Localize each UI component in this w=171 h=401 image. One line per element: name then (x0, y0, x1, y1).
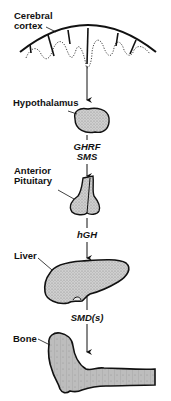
anterior-pituitary-shape (58, 176, 100, 215)
label-cortex-line2: cortex (14, 21, 53, 31)
liver-shape (38, 258, 129, 303)
label-ghrf-sms: GHRF SMS (72, 142, 102, 162)
label-smds: SMD(s) (66, 313, 108, 323)
label-hypothalamus: Hypothalamus (13, 98, 78, 108)
label-cerebral-cortex: Cerebral cortex (14, 11, 53, 31)
label-pituitary-line2: Pituitary (14, 176, 52, 186)
label-liver: Liver (14, 251, 37, 261)
hypothalamus-shape (68, 108, 109, 132)
label-hgh: hGH (74, 230, 100, 240)
cerebral-cortex-shape (20, 25, 156, 68)
bone-shape (38, 333, 155, 393)
label-bone: Bone (13, 334, 37, 344)
label-sms: SMS (72, 152, 102, 162)
label-anterior-pituitary: Anterior Pituitary (14, 166, 52, 186)
